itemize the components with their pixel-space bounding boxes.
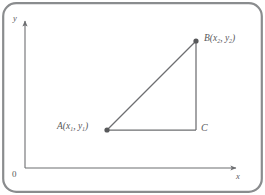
point-marker-a (104, 127, 109, 132)
coordinate-diagram (0, 0, 265, 195)
point-label-b-text: B(x2, y2) (204, 33, 235, 43)
y-axis-label: y (13, 14, 17, 23)
point-label-c: C (201, 123, 208, 133)
segment-hypotenuse-ab (107, 41, 196, 130)
figure-container: A(x1, y1) B(x2, y2) C x y 0 (0, 0, 265, 195)
point-label-c-text: C (201, 122, 208, 133)
point-label-a-text: A(x1, y1) (57, 121, 88, 131)
point-label-a: A(x1, y1) (57, 122, 88, 132)
point-label-b: B(x2, y2) (204, 34, 235, 44)
origin-label: 0 (12, 170, 17, 179)
x-axis-label: x (236, 172, 240, 181)
point-marker-b (193, 38, 198, 43)
